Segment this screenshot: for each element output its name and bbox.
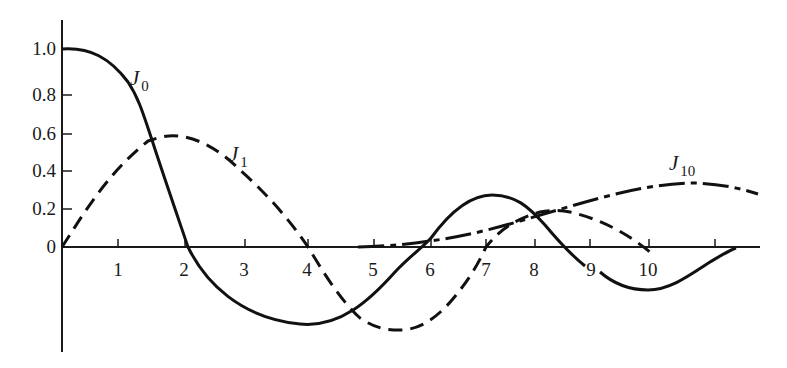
label-j1-sub: 1 [240, 154, 248, 170]
y-tick-label: 0 [47, 236, 57, 257]
y-tick-label: 1.0 [32, 38, 56, 59]
y-tick-label: 0.8 [32, 84, 56, 105]
label-j0-main: J [130, 66, 141, 90]
y-ticks: 1.0 0.8 0.6 0.4 0.2 0 [32, 38, 72, 257]
label-j10-sub: 10 [680, 163, 695, 179]
label-j1: J1 [229, 142, 248, 170]
curve-labels: J0 J1 J10 [130, 66, 695, 179]
x-tick-label: 1 [113, 259, 123, 280]
x-tick-label: 7 [481, 259, 491, 280]
j10-curve [358, 183, 758, 247]
x-tick-label: 3 [239, 259, 249, 280]
label-j10: J10 [669, 151, 695, 179]
label-j0: J0 [130, 66, 149, 94]
j0-curve-part2 [600, 248, 736, 290]
y-tick-label: 0.4 [32, 160, 56, 181]
x-tick-label: 2 [179, 259, 189, 280]
series-j0 [62, 49, 736, 325]
bessel-function-chart: 1.0 0.8 0.6 0.4 0.2 0 1 2 3 4 5 6 7 8 9 … [0, 0, 787, 368]
x-tick-label: 9 [586, 259, 596, 280]
y-tick-label: 0.2 [32, 198, 56, 219]
j1-curve [62, 136, 650, 330]
series-j10 [358, 183, 758, 247]
y-tick-label: 0.6 [32, 123, 56, 144]
x-tick-label: 5 [368, 259, 378, 280]
series-j1 [62, 136, 650, 330]
label-j1-main: J [229, 142, 240, 166]
label-j0-sub: 0 [141, 78, 149, 94]
x-tick-label: 6 [425, 259, 435, 280]
x-tick-label: 4 [302, 259, 312, 280]
x-tick-label: 8 [529, 259, 539, 280]
label-j10-main: J [669, 151, 680, 175]
x-tick-label: 10 [639, 259, 658, 280]
